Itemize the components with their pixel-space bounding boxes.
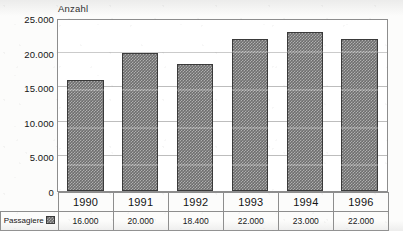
y-axis-tick-label: 20.000 (0, 48, 54, 59)
table-cell-year: 1993 (223, 193, 278, 212)
table-corner-blank (1, 193, 59, 212)
legend-label-passagiere: Passagiere (4, 216, 44, 225)
table-cell-value: 22.000 (223, 212, 278, 231)
chart-figure: Anzahl 05.00010.00015.00020.00025.000 19… (0, 0, 403, 231)
table-row-values: Passagiere 16.00020.00018.40022.00023.00… (1, 212, 389, 231)
table-cell-year: 1991 (113, 193, 168, 212)
data-table: 199019911992199319941996 Passagiere 16.0… (0, 192, 389, 231)
data-table-wrapper: 199019911992199319941996 Passagiere 16.0… (0, 192, 389, 231)
table-cell-value: 16.000 (58, 212, 113, 231)
bar-slot (222, 20, 277, 191)
y-axis-tick-label: 10.000 (0, 117, 54, 128)
bar-slot (113, 20, 168, 191)
bar-1992 (177, 64, 213, 191)
table-cell-value: 22.000 (333, 212, 388, 231)
bar-1990 (67, 80, 103, 191)
table-row-years: 199019911992199319941996 (1, 193, 389, 212)
plot-area (57, 19, 388, 192)
table-cell-year: 1992 (168, 193, 223, 212)
passagiere-swatch-icon (46, 216, 55, 224)
bar-1993 (232, 39, 268, 191)
bar-1994 (287, 32, 323, 191)
table-cell-value: 18.400 (168, 212, 223, 231)
table-cell-value: 20.000 (113, 212, 168, 231)
y-axis-tick-label: 5.000 (0, 152, 54, 163)
table-cell-year: 1994 (278, 193, 333, 212)
table-cell-year: 1996 (333, 193, 388, 212)
legend-cell: Passagiere (1, 212, 59, 231)
bar-slot (332, 20, 387, 191)
bar-1996 (341, 39, 377, 191)
bar-slot (58, 20, 113, 191)
bar-series-passagiere (58, 20, 387, 191)
y-axis-tick-label: 25.000 (0, 14, 54, 25)
bar-slot (168, 20, 223, 191)
y-axis-title: Anzahl (58, 3, 88, 14)
y-axis-tick-label: 15.000 (0, 83, 54, 94)
table-cell-value: 23.000 (278, 212, 333, 231)
bar-slot (277, 20, 332, 191)
table-cell-year: 1990 (58, 193, 113, 212)
bar-1991 (122, 53, 158, 191)
